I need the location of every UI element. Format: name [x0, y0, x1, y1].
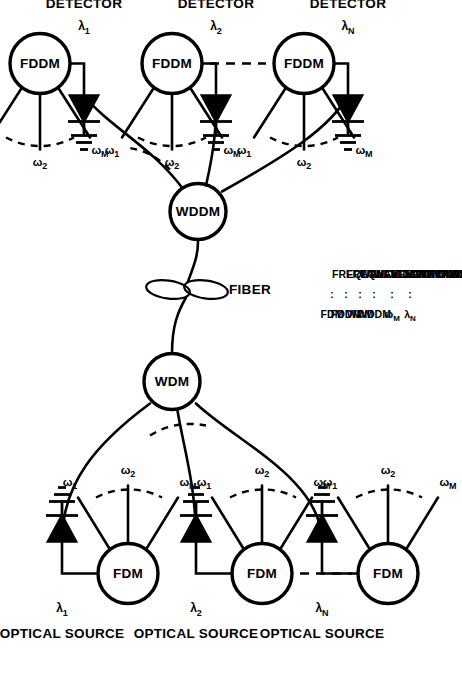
legend-abbr-4: ωM [384, 307, 400, 322]
legend-colon-1: : [344, 287, 348, 299]
detector-n-title: DETECTOR [310, 0, 386, 11]
rotated-figure-container: FDM FDM FDM WDM WDDM FDDM FDDM FDDM FIBE… [0, 0, 462, 693]
wddm-to-detector-1-line [84, 95, 182, 187]
detector-n-group [222, 33, 364, 191]
carrier-line-nc [406, 497, 438, 549]
carrier-line-2a [212, 497, 244, 549]
detector-n-carrier-2-label: ω2 [297, 155, 312, 170]
detector-2-title: DETECTOR [178, 0, 254, 11]
fddm-node-1-circle [10, 33, 70, 93]
detector-1-lambda: λ1 [78, 19, 90, 35]
diode-1-to-fddm [70, 63, 84, 95]
wddm-node-circle [170, 183, 226, 239]
fdm-node-n-circle [358, 543, 418, 603]
photodiode-symbol-2 [200, 95, 232, 149]
detector-2-carrier-1-label: ω1 [105, 143, 120, 158]
carrier-line-1a [78, 497, 110, 549]
detector-n-carrier-1-label: ω1 [237, 143, 252, 158]
detector-n-lambda: λN [341, 19, 354, 35]
optical-source-2-title: OPTICAL SOURCE [134, 626, 259, 641]
carrier-line-na [338, 497, 370, 549]
legend-colon-3: : [372, 287, 376, 299]
optical-source-1-lambda: λ1 [56, 601, 68, 617]
fddm-node-n-circle [274, 33, 334, 93]
source-n-carrier-m-label: ωM [439, 475, 456, 490]
wdm-node-circle [144, 353, 200, 409]
source-2-carrier-2-label: ω2 [255, 463, 270, 478]
out-line-2a [122, 87, 154, 137]
fdm-node-2-circle [232, 543, 292, 603]
fiber-label: FIBER [229, 282, 271, 297]
diagram-canvas: FDM FDM FDM WDM WDDM FDDM FDDM FDDM FIBE… [0, 0, 462, 693]
fddm-node-2-circle [142, 33, 202, 93]
fdm-n-to-diode [322, 541, 358, 573]
fdm-2-to-diode [196, 541, 232, 573]
legend-colon-0: : [330, 287, 334, 299]
source-1-carrier-1-label: ω1 [63, 475, 78, 490]
diode-n-to-fddm [334, 63, 348, 95]
legend-desc-5: OPTICAL WAVELENGTH [410, 267, 462, 279]
figure-canvas: FDM FDM FDM WDM WDDM FDDM FDDM FDDM FIBE… [0, 0, 462, 693]
optical-source-n-lambda: λN [315, 601, 328, 617]
photodiode-symbol-n [332, 95, 364, 149]
photodiode-symbol-1 [68, 95, 100, 149]
fiber-to-wddm-line [188, 241, 198, 281]
carrier-line-1c [146, 497, 178, 549]
detector-1-carrier-2-label: ω2 [33, 155, 48, 170]
out-line-na [254, 87, 286, 137]
wdm-to-fiber-line [172, 297, 186, 353]
source-1-carrier-2-label: ω2 [121, 463, 136, 478]
legend-colon-4: : [390, 287, 394, 299]
legend-abbr-5: λN [404, 307, 416, 322]
optical-source-n-title: OPTICAL SOURCE [260, 626, 385, 641]
optical-source-1-title: OPTICAL SOURCE [0, 626, 124, 641]
out-line-1a [0, 87, 22, 137]
detector-n-carrier-m-label: ωM [355, 143, 372, 158]
optical-source-2-lambda: λ2 [190, 601, 202, 617]
wdm-feed-ellipsis-arc [150, 423, 206, 435]
detector-2-carrier-2-label: ω2 [165, 155, 180, 170]
legend-colon-2: : [358, 287, 362, 299]
diagram-svg [0, 0, 462, 693]
diode-2-to-fddm [202, 63, 216, 95]
source-n-carrier-1-label: ω1 [323, 475, 338, 490]
source-1-carrier-m-label: ωM [179, 475, 196, 490]
detector-2-lambda: λ2 [210, 19, 222, 35]
source-n-carrier-2-label: ω2 [381, 463, 396, 478]
source-2-group [176, 401, 312, 603]
source-1-to-wdm-line [62, 403, 150, 541]
source-2-carrier-1-label: ω1 [197, 475, 212, 490]
fdm-node-1-circle [98, 543, 158, 603]
legend-colon-5: : [408, 287, 412, 299]
detector-1-title: DETECTOR [46, 0, 122, 11]
source-1-group [46, 403, 178, 603]
fdm-1-to-diode [62, 541, 98, 573]
